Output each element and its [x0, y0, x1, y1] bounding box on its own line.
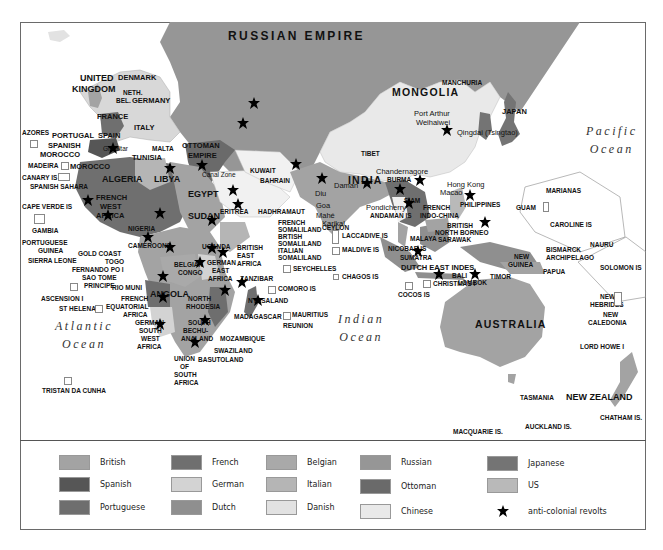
revolt-star-icon: [412, 245, 424, 257]
legend-item-danish: Danish: [266, 499, 335, 515]
legend-swatch: [171, 477, 202, 492]
legend-item-dutch: Dutch: [171, 499, 236, 515]
label-indian-ocean: IndianOcean: [338, 310, 384, 346]
label-pacific-ocean: PacificOcean: [586, 122, 637, 158]
label-mongolia: MONGOLIA: [392, 87, 459, 98]
label-mozambique: MOZAMBIQUE: [220, 336, 265, 343]
label-bea-2: EAST: [237, 253, 254, 260]
inset-tristan: [64, 377, 72, 385]
label-bahrain: BAHRAIN: [260, 178, 290, 185]
revolt-star-icon: [102, 209, 114, 221]
label-france: FRANCE: [97, 113, 128, 121]
legend-item-revolts: anti-colonial revolts: [487, 503, 607, 519]
label-canary: CANARY IS: [22, 175, 57, 182]
label-fea-2: EQUATORIAL: [106, 304, 148, 311]
label-auckland: AUCKLAND IS.: [525, 424, 572, 431]
legend: British Spanish Portuguese French German…: [20, 441, 646, 530]
label-usa-3: SOUTH: [174, 372, 197, 379]
label-north-rhodesia-2: RHODESIA: [186, 304, 220, 311]
label-swaziland: SWAZILAND: [214, 348, 253, 355]
label-chatham: CHATHAM IS.: [600, 415, 642, 422]
label-pondicherry: Pondicherry: [366, 204, 406, 212]
label-spanish-morocco-2: MOROCCO: [40, 151, 80, 159]
label-fea-1: FRENCH: [121, 296, 148, 303]
label-mauritius: MAURITIUS: [292, 312, 328, 319]
label-manchuria: MANCHURIA: [442, 80, 482, 87]
label-solomon: SOLOMON IS: [600, 265, 642, 272]
label-azores: AZORES: [22, 130, 49, 137]
revolt-star-icon: [157, 291, 169, 303]
label-lord-howe: LORD HOWE I: [580, 344, 624, 351]
revolt-star-icon: [414, 174, 426, 186]
label-principe: PRINCIPE: [84, 283, 115, 290]
label-uk-2: KINGDOM: [72, 85, 116, 94]
label-marianas: MARIANAS: [546, 188, 581, 195]
label-fea-3: AFRICA: [123, 312, 148, 319]
legend-item-spanish: Spanish: [59, 476, 132, 492]
label-maldive: MALDIVE IS: [342, 247, 379, 254]
revolt-star-icon: [164, 241, 176, 253]
label-tibet: TIBET: [361, 151, 380, 158]
label-cocos: COCOS IS: [398, 292, 430, 299]
label-north-rhodesia-1: NORTH: [188, 296, 211, 303]
revolt-star-icon: [394, 183, 406, 195]
label-qingdao: Qingdai (Tsingtao): [457, 129, 518, 137]
legend-label: French: [212, 458, 239, 467]
label-tasmania: TASMANIA: [520, 395, 554, 402]
inset-christmas: [423, 280, 431, 288]
label-macao: Macao: [440, 189, 463, 197]
legend-label: Spanish: [100, 480, 132, 489]
legend-label: Italian: [307, 480, 332, 489]
label-seychelles: SEYCHELLES: [293, 266, 336, 273]
label-papua: PAPUA: [543, 269, 565, 276]
inset-comoro: [268, 286, 276, 294]
legend-swatch: [487, 456, 518, 471]
label-madeira: MADEIRA: [28, 163, 58, 170]
label-bea-1: BRITISH: [237, 245, 263, 252]
label-tristan: TRISTAN DA CUNHA: [42, 388, 106, 395]
label-usa-4: AFRICA: [174, 380, 199, 387]
legend-item-chinese: Chinese: [360, 503, 433, 519]
label-comoro: COMORO IS: [278, 286, 316, 293]
label-fernando-po: FERNANDO PO I: [72, 267, 124, 274]
label-ottoman-1: OTTOMAN: [182, 142, 220, 150]
label-sarawak: SARAWAK: [438, 237, 471, 244]
label-bel: BEL.: [116, 98, 131, 105]
label-malaya: MALAYA: [410, 236, 437, 243]
label-christmas: CHRISTMAS I: [433, 281, 475, 288]
world-map: RUSSIAN EMPIRE ICELAND UNITED KINGDOM DE…: [20, 22, 646, 440]
label-sao-tome: SAO TOME: [82, 275, 117, 282]
legend-item-portuguese: Portuguese: [59, 499, 145, 515]
label-philippines: PHILIPPINES: [460, 202, 500, 209]
legend-item-british: British: [59, 454, 126, 470]
revolt-star-icon: [248, 97, 260, 109]
revolt-star-icon: [479, 216, 491, 228]
legend-item-french: French: [171, 454, 239, 470]
revolt-star-icon: [227, 184, 239, 196]
label-timor: TIMOR: [490, 274, 511, 281]
label-angola: ANGOLA: [150, 290, 189, 299]
revolt-star-icon: [194, 256, 206, 268]
label-nauru: NAURU: [590, 242, 613, 249]
revolt-star-icon: [206, 214, 218, 226]
label-tunisia: TUNISIA: [132, 154, 162, 162]
revolt-star-icon: [157, 270, 169, 282]
revolt-star-icon: [199, 314, 211, 326]
legend-label: German: [212, 480, 244, 489]
legend-swatch: [59, 455, 90, 470]
label-ascension: ASCENSION I: [41, 296, 83, 303]
label-new-caledonia-2: CALEDONIA: [588, 320, 627, 327]
revolt-star-icon: [433, 268, 445, 280]
label-andaman: ANDAMAN IS: [370, 213, 412, 220]
label-fwa-1: FRENCH: [96, 194, 127, 202]
inset-laccadive: [332, 230, 339, 244]
label-russian-empire: RUSSIAN EMPIRE: [228, 30, 365, 42]
legend-swatch: [360, 455, 391, 470]
label-basutoland: BASUTOLAND: [198, 357, 243, 364]
legend-swatch: [59, 477, 90, 492]
revolt-star-icon: [361, 177, 373, 189]
revolt-star-icon: [107, 142, 119, 154]
inset-chagos: [333, 274, 339, 280]
label-spain: SPAIN: [98, 132, 120, 140]
inset-canary: [58, 173, 70, 181]
